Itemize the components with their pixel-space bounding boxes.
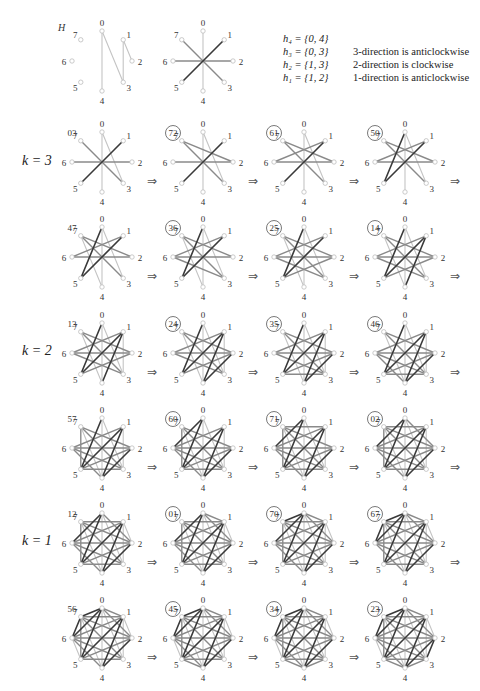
- node-label-6: 6: [163, 444, 168, 454]
- node-label-4: 4: [100, 292, 105, 302]
- node-label-2: 2: [239, 444, 244, 454]
- node-label-4: 4: [201, 578, 206, 588]
- node-4: [403, 476, 407, 480]
- node-0: [201, 321, 205, 325]
- node-4: [403, 285, 407, 289]
- node-label-1: 1: [228, 226, 233, 236]
- node-label-1: 1: [228, 512, 233, 522]
- node-label-2: 2: [239, 349, 244, 359]
- node-2: [332, 446, 336, 450]
- node-label-6: 6: [264, 539, 269, 549]
- node-label-4: 4: [302, 388, 307, 398]
- node-5: [382, 372, 386, 376]
- node-5: [79, 276, 83, 280]
- node-3: [323, 562, 327, 566]
- node-label-1: 1: [127, 512, 132, 522]
- node-label-2: 2: [138, 444, 143, 454]
- node-label-3: 3: [228, 565, 233, 575]
- node-6: [171, 541, 175, 545]
- legend-row-h1: h₁ = {1, 2}1-direction is anticlockwise: [283, 71, 469, 84]
- node-4: [403, 190, 407, 194]
- transition-arrow-icon: ⇒: [147, 650, 157, 664]
- node-0: [403, 130, 407, 134]
- node-label-3: 3: [329, 184, 334, 194]
- node-label-2: 2: [239, 253, 244, 263]
- graph-tag: 03: [68, 128, 78, 138]
- graph-12: 0123456712: [62, 500, 143, 588]
- transition-arrow-icon: ⇒: [248, 365, 258, 379]
- node-5: [281, 562, 285, 566]
- node-2: [433, 255, 437, 259]
- node-label-7: 7: [73, 30, 78, 40]
- node-5: [180, 181, 184, 185]
- node-4: [100, 285, 104, 289]
- node-label-1: 1: [228, 417, 233, 427]
- node-label-3: 3: [228, 83, 233, 93]
- transition-arrow-icon: ⇒: [248, 650, 258, 664]
- edge-6-1: [274, 141, 325, 162]
- transition-arrow-icon: ⇒: [248, 174, 258, 188]
- node-label-6: 6: [365, 634, 370, 644]
- node-7: [79, 330, 83, 334]
- graph-tag: 60: [169, 414, 179, 424]
- node-7: [382, 139, 386, 143]
- node-label-0: 0: [302, 119, 307, 129]
- node-label-3: 3: [329, 565, 334, 575]
- node-label-2: 2: [138, 158, 143, 168]
- node-7: [79, 425, 83, 429]
- transition-arrow-icon: ⇒: [450, 269, 460, 283]
- node-label-2: 2: [239, 634, 244, 644]
- node-label-2: 2: [441, 539, 446, 549]
- node-1: [222, 38, 226, 42]
- node-label-2: 2: [138, 634, 143, 644]
- node-3: [121, 276, 125, 280]
- node-4: [302, 285, 306, 289]
- node-1: [222, 520, 226, 524]
- node-label-1: 1: [127, 30, 132, 40]
- node-5: [180, 657, 184, 661]
- node-5: [382, 562, 386, 566]
- node-1: [222, 615, 226, 619]
- graph-tag: 56: [68, 604, 78, 614]
- node-2: [231, 446, 235, 450]
- node-4: [100, 89, 104, 93]
- node-7: [79, 139, 83, 143]
- node-1: [424, 234, 428, 238]
- node-label-0: 0: [302, 595, 307, 605]
- node-2: [231, 59, 235, 63]
- node-0: [302, 321, 306, 325]
- node-label-4: 4: [100, 578, 105, 588]
- node-3: [121, 181, 125, 185]
- transition-arrow-icon: ⇒: [349, 269, 359, 283]
- node-3: [222, 657, 226, 661]
- node-1: [222, 330, 226, 334]
- transition-arrow-icon: ⇒: [349, 174, 359, 188]
- node-0: [403, 511, 407, 515]
- node-label-1: 1: [430, 322, 435, 332]
- node-label-2: 2: [138, 253, 143, 263]
- node-label-0: 0: [201, 310, 206, 320]
- node-4: [403, 381, 407, 385]
- node-label-4: 4: [302, 578, 307, 588]
- node-2: [433, 636, 437, 640]
- node-label-6: 6: [163, 158, 168, 168]
- node-2: [332, 636, 336, 640]
- node-6: [373, 636, 377, 640]
- node-label-5: 5: [73, 565, 78, 575]
- node-label-5: 5: [376, 660, 381, 670]
- node-0: [100, 606, 104, 610]
- graph-72: 0123456772: [163, 119, 244, 207]
- node-1: [323, 139, 327, 143]
- node-5: [79, 372, 83, 376]
- node-2: [231, 160, 235, 164]
- node-label-6: 6: [365, 158, 370, 168]
- node-0: [403, 606, 407, 610]
- node-label-4: 4: [100, 388, 105, 398]
- node-label-6: 6: [163, 349, 168, 359]
- transition-arrow-icon: ⇒: [450, 174, 460, 188]
- node-0: [403, 321, 407, 325]
- node-label-4: 4: [403, 197, 408, 207]
- node-1: [323, 425, 327, 429]
- graph-34: 0123456734: [264, 595, 345, 683]
- node-label-3: 3: [127, 660, 132, 670]
